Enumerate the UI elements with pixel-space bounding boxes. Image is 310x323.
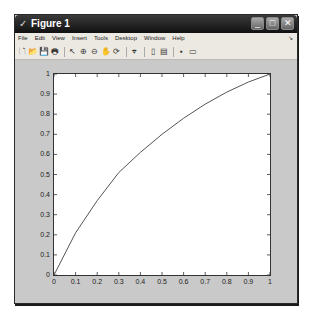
window-title: Figure 1 (31, 17, 70, 31)
y-tick-label: 0.4 (34, 191, 50, 199)
data-series-line (54, 74, 270, 275)
minimize-button[interactable]: _ (251, 17, 264, 30)
x-tick-label: 0 (46, 278, 62, 286)
data-cursor-icon[interactable]: ⌖ (130, 47, 139, 57)
x-tick-label: 0.6 (176, 278, 192, 286)
menu-window[interactable]: Window (144, 33, 165, 44)
x-tick-label: 0.3 (111, 278, 127, 286)
y-tick-label: 0.8 (34, 110, 50, 118)
open-file-icon[interactable]: 📂 (28, 47, 37, 57)
menu-bar: File Edit View Insert Tools Desktop Wind… (15, 33, 297, 44)
insert-colorbar-icon[interactable]: ▯ (148, 47, 157, 57)
figure-window: ✓ Figure 1 _ □ ✕ File Edit View Insert T… (14, 14, 298, 304)
print-icon[interactable]: 🖶 (50, 47, 59, 57)
x-tick-label: 0.8 (219, 278, 235, 286)
line-plot (54, 74, 270, 275)
x-tick-label: 1 (262, 278, 278, 286)
toolbar-separator (64, 47, 65, 57)
pan-hand-icon[interactable]: ✋ (101, 47, 110, 57)
zoom-out-icon[interactable]: ⊖ (90, 47, 99, 57)
title-bar[interactable]: ✓ Figure 1 _ □ ✕ (15, 15, 297, 33)
menu-help[interactable]: Help (172, 33, 184, 44)
menu-edit[interactable]: Edit (35, 33, 45, 44)
rotate-3d-icon[interactable]: ⟳ (112, 47, 121, 57)
toolbar-separator (126, 47, 127, 57)
menu-file[interactable]: File (18, 33, 28, 44)
toolbar-separator (173, 47, 174, 57)
x-tick-label: 0.5 (154, 278, 170, 286)
toolbar-separator (144, 47, 145, 57)
maximize-button[interactable]: □ (266, 17, 279, 30)
hide-plot-tools-icon[interactable]: ▪ (177, 47, 186, 57)
edit-plot-arrow-icon[interactable]: ↖ (68, 47, 77, 57)
menu-tools[interactable]: Tools (94, 33, 108, 44)
close-button[interactable]: ✕ (281, 17, 294, 30)
y-tick-label: 0.9 (34, 90, 50, 98)
new-figure-icon[interactable]: 🗋 (17, 47, 26, 57)
y-tick-label: 0.7 (34, 130, 50, 138)
menu-dock-arrow-icon[interactable]: ↘ (288, 34, 293, 41)
menu-insert[interactable]: Insert (72, 33, 87, 44)
y-tick-label: 1 (34, 70, 50, 78)
y-tick-label: 0.5 (34, 171, 50, 179)
figure-toolbar: 🗋 📂 💾 🖶 ↖ ⊕ ⊖ ✋ ⟳ ⌖ ▯ ▤ ▪ ▭ (15, 44, 297, 60)
x-tick-label: 0.2 (89, 278, 105, 286)
zoom-in-icon[interactable]: ⊕ (79, 47, 88, 57)
y-tick-label: 0.3 (34, 211, 50, 219)
x-tick-label: 0.4 (132, 278, 148, 286)
y-tick-label: 0.1 (34, 251, 50, 259)
insert-legend-icon[interactable]: ▤ (159, 47, 168, 57)
x-tick-label: 0.9 (240, 278, 256, 286)
menu-view[interactable]: View (52, 33, 65, 44)
y-tick-label: 0.6 (34, 150, 50, 158)
x-tick-label: 0.7 (197, 278, 213, 286)
matlab-figure-icon: ✓ (19, 18, 29, 30)
plot-axes[interactable] (53, 73, 271, 276)
x-tick-label: 0.1 (68, 278, 84, 286)
save-icon[interactable]: 💾 (39, 47, 48, 57)
y-tick-label: 0.2 (34, 231, 50, 239)
menu-desktop[interactable]: Desktop (115, 33, 137, 44)
show-plot-tools-icon[interactable]: ▭ (188, 47, 197, 57)
figure-canvas: 00.10.20.30.40.50.60.70.80.91 00.10.20.3… (15, 60, 297, 303)
